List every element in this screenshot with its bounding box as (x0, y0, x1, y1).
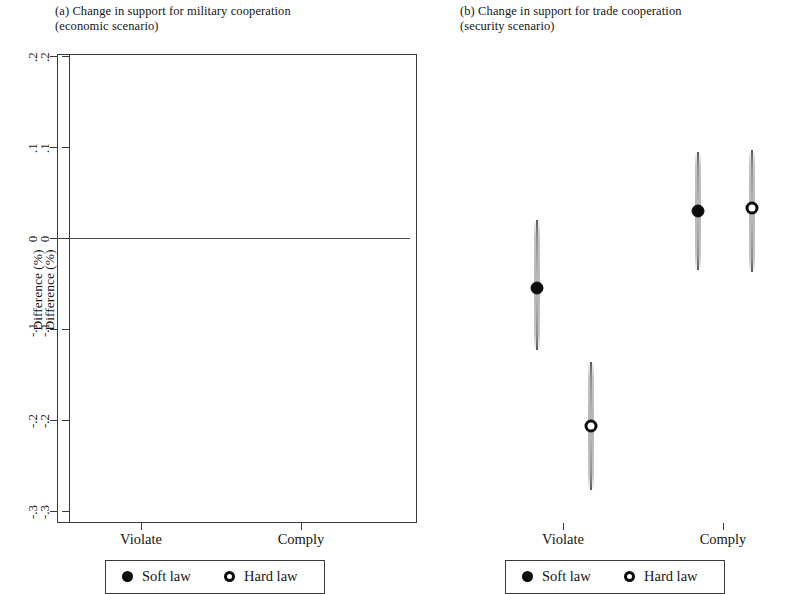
x-tick-label-b-comply: Comply (668, 531, 778, 548)
legend-item-soft-law-a: Soft law (122, 568, 191, 585)
y-tick-b-2 (62, 238, 69, 239)
y-axis-title-b: Difference (%) (42, 230, 58, 350)
y-tick-label-b-0: .2 (37, 40, 53, 74)
plot-area-b (69, 54, 417, 523)
legend-item-hard-law-b: Hard law (624, 568, 698, 585)
legend-label-hard-law-a: Hard law (244, 568, 298, 585)
legend-label-soft-law-b: Soft law (542, 568, 591, 585)
point-b-comply-hard (746, 202, 759, 215)
point-b-comply-soft (692, 205, 705, 218)
panel-b-title: (b) Change in support for trade cooperat… (460, 4, 682, 33)
x-tick-b-violate (563, 523, 564, 530)
x-tick-a-comply (301, 523, 302, 530)
panel-b: (b) Change in support for trade cooperat… (405, 0, 810, 592)
legend-item-hard-law-a: Hard law (224, 568, 298, 585)
hollow-circle-icon (624, 571, 635, 582)
y-tick-b-5 (62, 511, 69, 512)
x-tick-label-b-violate: Violate (508, 531, 618, 548)
legend-a: Soft law Hard law (105, 560, 325, 594)
legend-label-soft-law-a: Soft law (142, 568, 191, 585)
legend-b: Soft law Hard law (505, 560, 725, 594)
y-tick-label-b-1: .1 (37, 131, 53, 165)
panel-a-title: (a) Change in support for military coope… (55, 4, 291, 33)
y-tick-b-1 (62, 147, 69, 148)
x-tick-b-comply (723, 523, 724, 530)
x-tick-label-a-violate: Violate (86, 531, 196, 548)
filled-circle-icon (522, 571, 533, 582)
legend-label-hard-law-b: Hard law (644, 568, 698, 585)
y-tick-b-3 (62, 329, 69, 330)
y-tick-label-b-4: -.2 (37, 404, 53, 438)
x-tick-label-a-comply: Comply (246, 531, 356, 548)
x-tick-a-violate (141, 523, 142, 530)
y-tick-b-0 (62, 56, 69, 57)
point-b-violate-soft (531, 282, 544, 295)
hollow-circle-icon (224, 571, 235, 582)
point-b-violate-hard (585, 420, 598, 433)
y-tick-b-4 (62, 420, 69, 421)
legend-item-soft-law-b: Soft law (522, 568, 591, 585)
y-tick-label-b-5: -.3 (37, 495, 53, 529)
filled-circle-icon (122, 571, 133, 582)
zero-reference-line-b (69, 238, 410, 239)
